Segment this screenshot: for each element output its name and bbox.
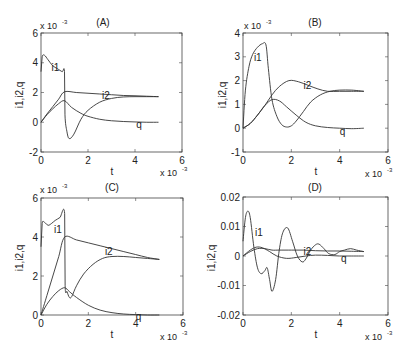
series-i1-line <box>41 209 159 298</box>
y-tick-label: 0 <box>234 123 240 134</box>
x-tick-label: 2 <box>289 155 295 166</box>
x-tick-label: 0 <box>38 318 44 329</box>
panel-title: (D) <box>308 182 322 193</box>
series-label-i2: i2 <box>303 80 311 91</box>
y-axis-label: i1,i2,q <box>14 82 25 109</box>
y-multiplier-exponent: -3 <box>62 19 68 25</box>
y-tick-label: 2 <box>234 75 240 86</box>
x-axis-label: t <box>111 166 114 177</box>
plot-area: 0246-101234i1i2q <box>231 28 391 167</box>
series-i2-line <box>41 236 159 315</box>
y-tick-label: 4 <box>32 57 38 68</box>
y-tick-label: -0.01 <box>217 280 240 291</box>
y-multiplier: x 10 <box>244 21 261 31</box>
plot-area: 02460246i1i2q <box>32 193 186 330</box>
axes-frame <box>243 197 388 315</box>
series-q-line <box>41 288 159 315</box>
x-tick-label: 6 <box>179 155 185 166</box>
x-multiplier: x 10 <box>160 332 177 342</box>
y-tick-label: -2 <box>29 147 38 158</box>
x-tick-label: 2 <box>86 318 92 329</box>
x-tick-label: 4 <box>337 318 343 329</box>
axes-frame <box>243 33 388 152</box>
series-q-line <box>243 99 364 128</box>
x-tick-label: 2 <box>85 155 91 166</box>
y-tick-label: 1 <box>234 99 240 110</box>
y-tick-label: 3 <box>234 51 240 62</box>
series-label-q: q <box>136 311 142 322</box>
y-axis-label: i1,i2,q <box>206 245 217 272</box>
y-tick-label: 2 <box>32 271 38 282</box>
series-label-i1: i1 <box>52 62 60 73</box>
series-label-i1: i1 <box>254 52 262 63</box>
y-multiplier-exponent: -3 <box>266 19 272 25</box>
y-multiplier: x 10 <box>40 185 57 195</box>
x-tick-label: 6 <box>180 318 186 329</box>
x-multiplier-exponent: -3 <box>387 330 393 336</box>
x-multiplier-exponent: -3 <box>182 166 188 172</box>
plot-area: 0246-20246i1i2q <box>29 28 185 167</box>
series-label-i1: i1 <box>54 224 62 235</box>
plot-areas: 0246-20246i1i2q0246-101234i1i2q02460246i… <box>29 28 391 330</box>
x-tick-label: 2 <box>289 318 295 329</box>
series-i2-line <box>41 91 159 122</box>
y-tick-label: 0.01 <box>221 221 241 232</box>
series-label-i2: i2 <box>102 90 110 101</box>
x-multiplier-exponent: -3 <box>182 330 188 336</box>
y-tick-label: -0.02 <box>217 310 240 321</box>
x-tick-label: 6 <box>385 155 391 166</box>
panel-title: (C) <box>105 182 119 193</box>
figure: (A) x 10 -3 i1,i2,q t x 10 -3 (B) x 10 -… <box>0 0 407 355</box>
y-multiplier: x 10 <box>40 21 57 31</box>
y-tick-label: 4 <box>32 232 38 243</box>
y-tick-label: 0 <box>234 251 240 262</box>
x-tick-label: 6 <box>385 318 391 329</box>
x-axis-label: t <box>315 166 318 177</box>
x-multiplier: x 10 <box>365 332 382 342</box>
y-tick-label: 0 <box>32 310 38 321</box>
series-label-i2: i2 <box>105 246 113 257</box>
y-tick-label: 2 <box>32 87 38 98</box>
y-multiplier-exponent: -3 <box>62 183 68 189</box>
x-multiplier: x 10 <box>160 168 177 178</box>
y-axis-label: i1,i2,q <box>14 245 25 272</box>
series-label-q: q <box>341 253 347 264</box>
x-multiplier-exponent: -3 <box>387 167 393 173</box>
x-axis-label: t <box>111 329 114 340</box>
series-label-q: q <box>136 119 142 130</box>
series-label-i2: i2 <box>303 246 311 257</box>
y-tick-label: 6 <box>32 193 38 204</box>
x-tick-label: 4 <box>132 155 138 166</box>
x-tick-label: 0 <box>240 318 246 329</box>
x-tick-label: 0 <box>38 155 44 166</box>
panel-title: (A) <box>96 17 109 28</box>
x-axis-label: t <box>315 329 318 340</box>
series-label-i1: i1 <box>255 227 263 238</box>
plot-area: 0246-0.02-0.0100.010.02i1i2q <box>217 192 391 330</box>
y-tick-label: -1 <box>231 147 240 158</box>
series-label-q: q <box>340 126 346 137</box>
x-tick-label: 4 <box>337 155 343 166</box>
panel-title: (B) <box>308 17 321 28</box>
y-tick-label: 6 <box>32 28 38 39</box>
x-tick-label: 0 <box>240 155 246 166</box>
panel-a: (A) x 10 -3 i1,i2,q t x 10 -3 <box>14 17 188 178</box>
y-tick-label: 0 <box>32 117 38 128</box>
axes-frame <box>41 33 182 152</box>
x-multiplier: x 10 <box>365 169 382 179</box>
y-axis-label: i1,i2,q <box>217 82 228 109</box>
y-tick-label: 4 <box>234 28 240 39</box>
y-tick-label: 0.02 <box>221 192 241 203</box>
